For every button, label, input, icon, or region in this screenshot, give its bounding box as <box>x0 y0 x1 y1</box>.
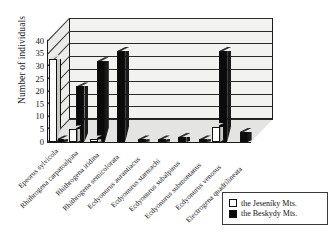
bar-series-container <box>47 18 273 143</box>
bar <box>212 127 220 142</box>
x-axis-tick-label: Rhithrogena iridina <box>0 151 100 246</box>
filled-square-icon <box>229 210 237 218</box>
x-axis-tick-label: Ecdyonurus starmachi <box>0 157 162 246</box>
bar-front-face <box>69 129 77 142</box>
bar-side-face <box>105 61 109 142</box>
y-axis-tick-label: 40 <box>26 37 44 46</box>
x-axis-tick-label: Ecdyonurus venosus <box>5 163 223 246</box>
x-axis-tick-label: Electrogena quadrilineata <box>26 165 244 246</box>
bar-side-face <box>248 132 252 142</box>
y-axis-tick-label: 35 <box>26 49 44 58</box>
legend-item-label: the Beskydy Mts. <box>241 209 297 218</box>
y-axis-tick-label: 10 <box>26 112 44 121</box>
legend-item[interactable]: the Jeseníky Mts. <box>229 199 322 208</box>
x-axis-tick-label: Ecdyonurus submontanus <box>0 161 202 246</box>
bar-side-face <box>64 139 68 142</box>
bar-front-face <box>240 132 248 142</box>
legend-item-label: the Jeseníky Mts. <box>241 199 297 208</box>
legend-item[interactable]: the Beskydy Mts. <box>229 209 322 218</box>
bar-front-face <box>199 139 207 142</box>
bar <box>49 59 57 142</box>
open-square-icon <box>229 199 237 207</box>
bar <box>97 61 105 142</box>
bar-front-face <box>90 139 98 142</box>
bar-side-face <box>125 51 129 142</box>
bar-front-face <box>117 51 125 142</box>
bar-side-face <box>227 51 231 142</box>
bar <box>69 129 77 142</box>
bar-side-face <box>146 139 150 142</box>
y-axis-tick-label: 30 <box>26 62 44 71</box>
bar <box>178 137 186 142</box>
bar <box>90 139 98 142</box>
bar-side-face <box>207 139 211 142</box>
bar-front-face <box>138 139 146 142</box>
x-axis-tick-label: Ecdyonurus subalpinus <box>0 159 182 246</box>
chart-legend: the Jeseníky Mts. the Beskydy Mts. <box>222 192 328 225</box>
bar-front-face <box>212 127 220 142</box>
x-axis-tick-label: Ecdyonurus aurantiacus <box>0 155 141 246</box>
bar <box>199 139 207 142</box>
y-axis-tick-labels: 4035302520151050 <box>26 17 44 141</box>
bar-front-face <box>178 137 186 142</box>
y-axis-tick-label: 25 <box>26 75 44 84</box>
bar-front-face <box>158 139 166 142</box>
y-axis-tick-label: 15 <box>26 100 44 109</box>
bar-chart-figure: Number of individuals 4035302520151050 E… <box>0 0 336 246</box>
bar-side-face <box>186 137 190 142</box>
y-axis-tick-label: 20 <box>26 87 44 96</box>
bar-side-face <box>57 59 61 142</box>
y-axis-tick-label: 5 <box>26 125 44 134</box>
bar-side-face <box>166 139 170 142</box>
x-axis-tick-label: Rhithrogena semicolorata <box>0 153 121 246</box>
bar <box>158 139 166 142</box>
bar-front-face <box>97 61 105 142</box>
bar <box>138 139 146 142</box>
y-axis-tick-label: 0 <box>26 138 44 147</box>
bar <box>117 51 125 142</box>
plot-area <box>47 18 273 142</box>
x-axis-tick-label: Rhithrogena carpatoalpina <box>0 149 80 246</box>
x-axis-tick-label: Epeorus sylvicola <box>0 147 60 246</box>
bar <box>240 132 248 142</box>
bar-side-face <box>84 86 88 142</box>
bar-front-face <box>49 59 57 142</box>
